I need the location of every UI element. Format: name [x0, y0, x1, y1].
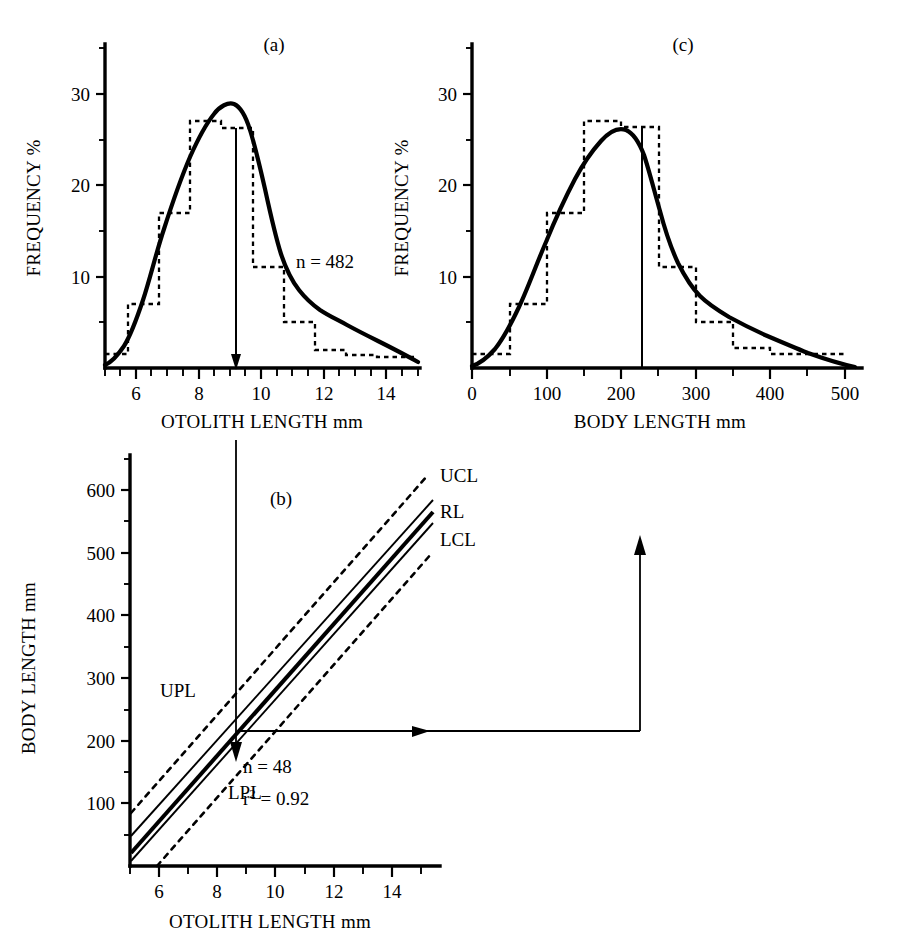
panel-b-annotation-r2: r2 = 0.92 [243, 786, 309, 810]
panel-b-ytick-600: 600 [87, 480, 116, 501]
panel-a-xtick-6: 6 [131, 383, 141, 404]
panel-c-xtick-0: 0 [467, 383, 477, 404]
panel-a-ylabel: FREQUENCY % [23, 139, 44, 276]
panel-c-xtick-200: 200 [607, 383, 636, 404]
panel-a-xtick-12: 12 [315, 383, 334, 404]
panel-a-curve [105, 103, 418, 365]
panel-b-label-lcl: LCL [440, 529, 476, 550]
panel-a-histogram [105, 121, 414, 357]
flow-arrow-a-to-b-head [230, 742, 242, 762]
panel-b-xtick-8: 8 [212, 881, 222, 902]
panel-c-xtick-300: 300 [682, 383, 711, 404]
panel-a-ytick-30: 30 [71, 84, 90, 105]
panel-a-xtick-8: 8 [194, 383, 204, 404]
panel-b-label: (b) [270, 488, 292, 510]
panel-c-xtick-400: 400 [756, 383, 785, 404]
panel-a-xtick-14: 14 [377, 383, 397, 404]
panel-c-histogram [472, 121, 845, 354]
panel-c-y-ticks: 10 20 30 [438, 48, 472, 322]
panel-b-series-ucl [131, 500, 433, 836]
panel-c-x-ticks: 0 100 200 300 400 500 [467, 368, 859, 404]
panel-b: (b) 100 200 300 400 500 600 [18, 455, 478, 932]
panel-b-annotation-n: n = 48 [243, 756, 292, 777]
panel-b-ytick-300: 300 [87, 668, 116, 689]
flow-arrow-b-to-c-head [634, 535, 646, 555]
panel-a-ytick-10: 10 [71, 267, 90, 288]
flow-arrow-b-to-c [238, 535, 646, 737]
panel-b-label-upl: UPL [160, 680, 196, 701]
panel-a-ytick-20: 20 [71, 175, 90, 196]
panel-a-label: (a) [263, 34, 284, 56]
panel-b-xlabel: OTOLITH LENGTH mm [169, 911, 371, 932]
panel-a-x-ticks: 6 8 10 12 14 [105, 368, 418, 404]
panel-b-ytick-400: 400 [87, 605, 116, 626]
panel-b-y-ticks: 100 200 300 400 500 600 [87, 459, 131, 835]
figure-svg: (a) 10 20 30 [0, 0, 898, 942]
panel-c-ytick-30: 30 [438, 84, 457, 105]
panel-b-x-ticks: 6 8 10 12 14 [130, 866, 421, 902]
panel-b-ytick-200: 200 [87, 731, 116, 752]
panel-a-xtick-10: 10 [252, 383, 271, 404]
panel-b-label-ucl: UCL [440, 465, 478, 486]
panel-c-ytick-10: 10 [438, 267, 457, 288]
panel-a-y-ticks: 10 20 30 [71, 48, 105, 322]
panel-c: (c) 10 20 30 0 [391, 34, 862, 432]
panel-a-marker-arrow [231, 128, 241, 370]
panel-a-annotation-n: n = 482 [296, 251, 354, 272]
panel-b-ytick-100: 100 [87, 793, 116, 814]
panel-c-label: (c) [672, 34, 693, 56]
panel-b-ylabel: BODY LENGTH mm [18, 582, 39, 754]
panel-c-xlabel: BODY LENGTH mm [574, 411, 746, 432]
panel-b-label-rl: RL [440, 501, 464, 522]
figure-root: (a) 10 20 30 [0, 0, 898, 942]
panel-c-curve [472, 129, 855, 367]
panel-c-ytick-20: 20 [438, 175, 457, 196]
panel-b-xtick-10: 10 [266, 881, 285, 902]
flow-arrow-b-to-c-mid-head [412, 726, 430, 737]
panel-b-ytick-500: 500 [87, 543, 116, 564]
panel-b-xtick-6: 6 [154, 881, 164, 902]
panel-c-ylabel: FREQUENCY % [391, 139, 412, 276]
panel-a-xlabel: OTOLITH LENGTH mm [161, 411, 363, 432]
panel-b-xtick-12: 12 [325, 881, 344, 902]
panel-b-xtick-14: 14 [383, 881, 403, 902]
panel-c-xtick-500: 500 [831, 383, 860, 404]
panel-b-series-lpl [157, 553, 432, 866]
panel-c-xtick-100: 100 [533, 383, 562, 404]
panel-a: (a) 10 20 30 [23, 34, 420, 432]
